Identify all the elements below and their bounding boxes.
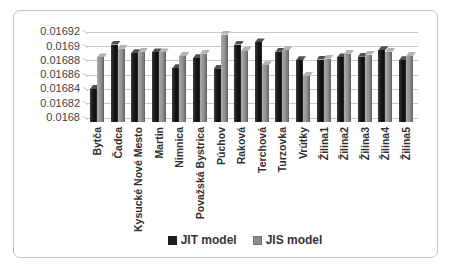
category-label: Vrútky xyxy=(297,127,309,159)
bar-jit-13 xyxy=(337,57,344,122)
category-label: Považská Bystrica xyxy=(194,127,206,219)
category-label: Raková xyxy=(235,127,247,164)
y-tick-label: 0.01684 xyxy=(8,82,80,95)
plot-area: 0.01680.016820.016840.016860.016880.0169… xyxy=(0,0,450,267)
bar-jit-15 xyxy=(378,50,385,122)
bar-jis-4 xyxy=(159,52,166,122)
bar-jis-2 xyxy=(118,49,125,122)
bar-jit-7 xyxy=(214,69,221,122)
bar-jis-3 xyxy=(138,52,145,122)
category-label: Martin xyxy=(153,127,165,159)
bar-jit-12 xyxy=(317,60,324,122)
bar-jit-2 xyxy=(111,45,118,122)
bar-jit-6 xyxy=(193,58,200,122)
chart-image: 0.01680.016820.016840.016860.016880.0169… xyxy=(0,0,450,267)
bar-jis-1 xyxy=(97,57,104,122)
y-tick-label: 0.0168 xyxy=(8,111,80,124)
bar-jit-16 xyxy=(399,60,406,122)
chart-legend: JIT model JIS model xyxy=(90,232,400,248)
jit-legend-label: JIT model xyxy=(181,233,237,247)
bar-jis-6 xyxy=(200,54,207,122)
bar-jis-5 xyxy=(179,56,186,122)
bar-jis-14 xyxy=(365,55,372,122)
bar-jit-10 xyxy=(275,52,282,122)
category-label: Bytča xyxy=(91,127,103,156)
bar-jis-13 xyxy=(344,54,351,122)
category-label: Žilina5 xyxy=(400,127,412,160)
category-label: Púchov xyxy=(215,127,227,165)
category-label: Terchová xyxy=(256,127,268,173)
legend-item-jit: JIT model xyxy=(168,233,237,247)
category-label: Turzovka xyxy=(276,127,288,172)
category-label: Kysucké Nové Mesto xyxy=(132,127,144,232)
bar-jis-8 xyxy=(241,51,248,122)
bar-jis-11 xyxy=(303,76,310,122)
jit-swatch-icon xyxy=(168,236,177,245)
bar-jit-9 xyxy=(255,42,262,122)
y-tick-label: 0.01686 xyxy=(8,68,80,81)
gridline xyxy=(87,46,418,47)
category-label: Žilina4 xyxy=(379,127,391,160)
bar-jis-9 xyxy=(262,65,269,122)
y-tick-label: 0.01682 xyxy=(8,97,80,110)
y-tick-label: 0.0169 xyxy=(8,40,80,53)
bar-jit-4 xyxy=(152,52,159,122)
category-label: Čadca xyxy=(112,127,124,159)
bar-jis-10 xyxy=(282,50,289,122)
bar-jit-11 xyxy=(296,60,303,122)
jis-legend-label: JIS model xyxy=(266,233,323,247)
y-tick-label: 0.01692 xyxy=(8,25,80,38)
category-label: Nimnica xyxy=(173,127,185,168)
bar-jis-12 xyxy=(324,59,331,122)
category-label: Žilina3 xyxy=(359,127,371,160)
gridline xyxy=(87,32,418,33)
jis-swatch-icon xyxy=(253,236,262,245)
bar-jit-8 xyxy=(234,45,241,122)
category-label: Žilina2 xyxy=(338,127,350,160)
bar-jit-5 xyxy=(172,68,179,122)
bar-jit-14 xyxy=(358,57,365,122)
bar-jit-1 xyxy=(90,89,97,122)
y-tick-label: 0.01688 xyxy=(8,54,80,67)
bar-jis-15 xyxy=(385,52,392,122)
category-label: Žilina1 xyxy=(318,127,330,160)
bar-jis-7 xyxy=(221,35,228,122)
bar-jit-3 xyxy=(131,53,138,122)
bar-jis-16 xyxy=(406,56,413,122)
legend-item-jis: JIS model xyxy=(253,233,323,247)
